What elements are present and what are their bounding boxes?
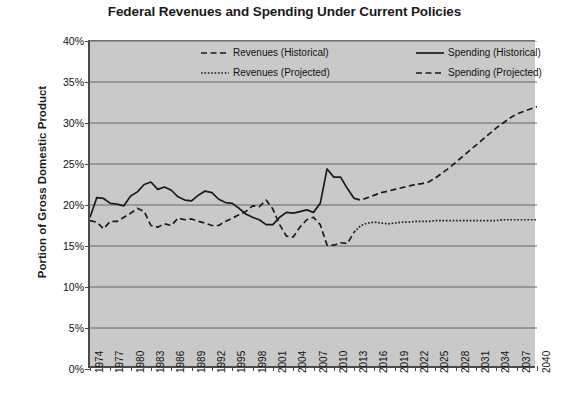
series-line-2 [90,169,354,225]
y-tick-mark [85,287,90,288]
series-line-4 [354,107,537,200]
x-tick-mark [171,366,172,371]
x-tick-mark [192,366,193,371]
x-tick-label: 2025 [439,351,450,373]
x-tick-label: 2019 [399,351,410,373]
plot-area: 0%5%10%15%20%25%30%35%40% 19741977198019… [88,40,535,368]
x-tick-label: 1977 [114,351,125,373]
legend-label: Spending (Projected) [448,67,542,78]
x-tick-mark [253,366,254,371]
y-tick-label: 10% [63,281,84,293]
x-tick-mark [273,366,274,371]
x-tick-mark [496,366,497,371]
y-tick-label: 0% [69,363,84,375]
series-line-3 [354,220,537,232]
y-tick-label: 25% [63,158,84,170]
y-tick-mark [85,328,90,329]
x-tick-mark [354,366,355,371]
x-tick-label: 2022 [419,351,430,373]
x-tick-mark [415,366,416,371]
x-tick-mark [151,366,152,371]
x-tick-mark [374,366,375,371]
plot-svg [90,41,537,369]
y-tick-mark [85,205,90,206]
x-tick-label: 1998 [257,351,268,373]
x-tick-mark [537,366,538,371]
x-tick-mark [232,366,233,371]
legend-item: Spending (Projected) [416,67,542,78]
y-tick-mark [85,164,90,165]
legend-label: Revenues (Historical) [233,47,329,58]
y-tick-label: 5% [69,322,84,334]
x-tick-mark [90,366,91,371]
legend-item: Revenues (Historical) [201,47,329,58]
legend-label: Revenues (Projected) [233,67,330,78]
x-tick-label: 2034 [500,351,511,373]
x-tick-label: 2001 [277,351,288,373]
chart-legend: Revenues (Historical)Spending (Historica… [106,45,521,87]
y-tick-label: 35% [63,76,84,88]
legend-line-sample [201,68,229,78]
x-tick-mark [293,366,294,371]
x-tick-label: 2010 [338,351,349,373]
legend-line-sample [416,48,444,58]
y-tick-mark [85,123,90,124]
series-line-1 [90,200,354,245]
x-tick-label: 2031 [480,351,491,373]
x-tick-label: 1989 [196,351,207,373]
x-tick-mark [456,366,457,371]
x-tick-mark [212,366,213,371]
x-tick-mark [314,366,315,371]
legend-item: Revenues (Projected) [201,67,330,78]
y-tick-mark [85,41,90,42]
x-tick-mark [476,366,477,371]
x-tick-label: 1995 [236,351,247,373]
x-tick-label: 2028 [460,351,471,373]
y-tick-mark [85,246,90,247]
legend-line-sample [416,68,444,78]
legend-label: Spending (Historical) [448,47,541,58]
x-tick-label: 1974 [94,351,105,373]
x-tick-label: 2037 [521,351,532,373]
y-tick-mark [85,82,90,83]
x-tick-mark [334,366,335,371]
x-tick-mark [110,366,111,371]
x-tick-mark [131,366,132,371]
x-tick-label: 2007 [318,351,329,373]
x-tick-mark [435,366,436,371]
x-tick-label: 1986 [175,351,186,373]
y-tick-label: 40% [63,35,84,47]
legend-line-sample [201,48,229,58]
x-tick-label: 1980 [135,351,146,373]
chart-title: Federal Revenues and Spending Under Curr… [0,4,569,19]
x-tick-label: 2040 [541,351,552,373]
x-tick-label: 1983 [155,351,166,373]
legend-item: Spending (Historical) [416,47,541,58]
x-tick-mark [395,366,396,371]
x-tick-label: 2016 [378,351,389,373]
x-tick-label: 1992 [216,351,227,373]
x-tick-mark [517,366,518,371]
y-axis-title: Portion of Gross Domestic Product [36,32,48,332]
x-tick-label: 2013 [358,351,369,373]
chart-figure: Federal Revenues and Spending Under Curr… [0,0,569,414]
y-tick-label: 30% [63,117,84,129]
x-tick-label: 2004 [297,351,308,373]
y-tick-label: 20% [63,199,84,211]
y-tick-label: 15% [63,240,84,252]
